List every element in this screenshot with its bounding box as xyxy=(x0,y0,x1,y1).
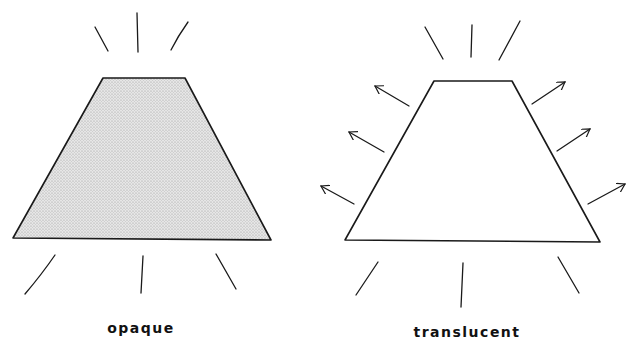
opaque-lampshade-group xyxy=(13,13,271,294)
lampshade-diagram xyxy=(0,0,635,351)
translucent-trapezoid xyxy=(345,81,600,242)
arrow-right-1 xyxy=(532,82,565,104)
translucent-lampshade-group xyxy=(321,21,625,307)
translucent-label: translucent xyxy=(412,324,522,340)
arrow-left-3 xyxy=(321,186,354,204)
opaque-trapezoid xyxy=(13,78,271,240)
opaque-label: opaque xyxy=(96,320,186,336)
arrow-left-1 xyxy=(375,86,409,106)
opaque-bottom-rays xyxy=(25,254,236,294)
arrow-right-2 xyxy=(557,129,590,151)
translucent-bottom-rays xyxy=(356,257,579,307)
arrow-right-3 xyxy=(588,184,625,204)
arrow-left-2 xyxy=(349,132,384,152)
translucent-top-rays xyxy=(425,21,520,60)
opaque-top-rays xyxy=(95,13,188,52)
